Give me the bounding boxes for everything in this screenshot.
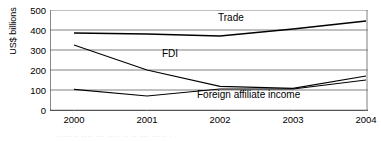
series-label-fdi: FDI: [162, 48, 178, 59]
y-tick-label: 500: [12, 6, 46, 15]
x-tick-label: 2001: [124, 114, 170, 125]
y-tick-label: 200: [12, 66, 46, 75]
y-axis-tick-labels: 500 400 300 200 100 0: [12, 0, 46, 141]
gridlines: [50, 10, 368, 90]
y-tick-label: 400: [12, 26, 46, 35]
series-line-fdi: [74, 45, 366, 88]
series-line-trade: [74, 21, 366, 36]
x-tick-label: 2002: [197, 114, 243, 125]
y-tick-label: 100: [12, 86, 46, 95]
x-tick-label: 2004: [343, 114, 381, 125]
caption-fragment: ........ .... ... .... .. .. ... ..... .: [55, 131, 345, 138]
y-tick-label: 0: [12, 106, 46, 115]
y-tick-label: 300: [12, 46, 46, 55]
series-label-trade: Trade: [218, 12, 244, 23]
series-label-foreign-affiliate-income: Foreign affiliate income: [197, 89, 300, 100]
x-tick-label: 2000: [51, 114, 97, 125]
x-tick-label: 2003: [270, 114, 316, 125]
